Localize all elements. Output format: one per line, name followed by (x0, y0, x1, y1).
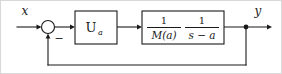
summing-junction (42, 21, 55, 34)
arrowhead-feedback-into-sum (46, 34, 51, 39)
output-signal-label: y (254, 4, 262, 18)
arrowhead-sum-to-controller (70, 25, 75, 30)
block-diagram-canvas: x y − U a 1 M(a) 1 s − a (1, 1, 282, 74)
arrowhead-controller-to-plant (137, 25, 142, 30)
controller-block-subscript: a (98, 28, 103, 37)
plant-fraction-2-denominator: s − a (188, 29, 215, 41)
arrowhead-input-to-sum (37, 25, 42, 30)
arrowhead-output (267, 25, 272, 30)
input-signal-label: x (22, 4, 29, 18)
plant-fraction-1-denominator: M(a) (150, 29, 176, 41)
plant-fraction-2-numerator: 1 (199, 15, 205, 26)
plant-fraction-1-numerator: 1 (161, 15, 167, 26)
block-diagram-figure: x y − U a 1 M(a) 1 s − a (0, 0, 282, 74)
output-branch-node (244, 25, 249, 30)
controller-block-label: U (86, 20, 97, 35)
feedback-sign-label: − (54, 32, 63, 45)
